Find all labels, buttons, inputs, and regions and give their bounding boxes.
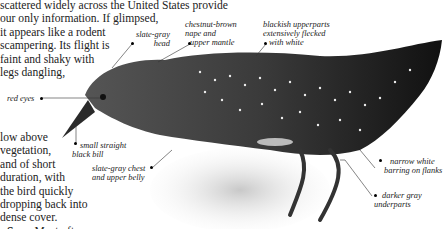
label-line: barring on flanks bbox=[384, 166, 442, 175]
bird-eye bbox=[100, 94, 106, 100]
song-line: • Song Most often bbox=[0, 225, 88, 229]
song-heading: Song bbox=[7, 225, 32, 229]
song-text: Most often bbox=[35, 225, 86, 229]
text-line: dense cover. bbox=[0, 211, 88, 224]
label-nape: chestnut-brown nape and upper mantle bbox=[185, 20, 237, 48]
label-bill: small straight black bill bbox=[72, 141, 126, 159]
pointer-dot bbox=[188, 42, 191, 45]
wing-highlight bbox=[257, 138, 293, 146]
label-line: small straight bbox=[72, 141, 126, 150]
label-line: and upper belly bbox=[92, 173, 145, 182]
label-underparts: darker gray underparts bbox=[374, 191, 422, 209]
text-line: the bird quickly bbox=[0, 185, 88, 198]
text-line: faint and shaky with bbox=[0, 53, 228, 66]
pointer-dot bbox=[40, 97, 43, 100]
label-head: slate-gray head bbox=[136, 30, 170, 48]
label-chest: slate-gray chest and upper belly bbox=[92, 164, 145, 182]
text-line: legs dangling, bbox=[0, 66, 228, 79]
label-line: darker gray bbox=[374, 191, 422, 200]
pointer-dot bbox=[150, 166, 153, 169]
label-line: underparts bbox=[374, 200, 422, 209]
text-line: scattered widely across the United State… bbox=[0, 0, 228, 12]
text-line: dropping back into bbox=[0, 198, 88, 211]
pointer-dot bbox=[264, 42, 267, 45]
label-line: upper mantle bbox=[185, 38, 237, 47]
label-line: black bill bbox=[72, 150, 126, 159]
label-line: slate-gray bbox=[136, 30, 170, 39]
label-line: with white bbox=[263, 38, 330, 47]
label-line: extensively flecked bbox=[263, 29, 330, 38]
label-line: narrow white bbox=[384, 157, 442, 166]
label-line: red eyes bbox=[7, 94, 34, 103]
bullet-icon: • bbox=[0, 225, 4, 229]
label-line: head bbox=[136, 39, 170, 48]
pointer-dot bbox=[74, 142, 77, 145]
text-line: and of short bbox=[0, 158, 88, 171]
text-line: duration, with bbox=[0, 171, 88, 184]
label-line: chestnut-brown bbox=[185, 20, 237, 29]
label-flanks: narrow white barring on flanks bbox=[384, 157, 442, 175]
pointer-dot bbox=[131, 42, 134, 45]
label-upperparts: blackish upperparts extensively flecked … bbox=[263, 20, 330, 48]
pointer-dot bbox=[379, 159, 382, 162]
label-eyes: red eyes bbox=[7, 94, 34, 103]
label-line: nape and bbox=[185, 29, 237, 38]
label-line: blackish upperparts bbox=[263, 20, 330, 29]
pointer-dot bbox=[374, 194, 377, 197]
label-line: slate-gray chest bbox=[92, 164, 145, 173]
